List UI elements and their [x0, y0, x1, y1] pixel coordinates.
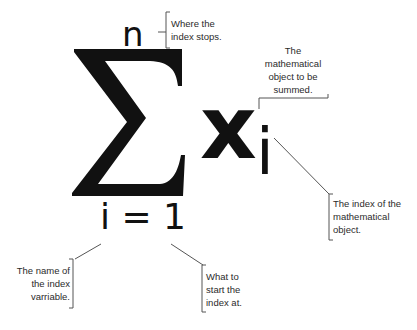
annotation-line: start the [206, 283, 242, 296]
term-subscript: i [256, 120, 274, 184]
index-name-leader [69, 244, 101, 308]
annotation-line: summed. [262, 83, 324, 96]
upper-limit-leader [158, 12, 170, 48]
annotation-upper-limit: Where the index stops. [171, 17, 222, 43]
annotation-line: What to [206, 270, 242, 283]
summand-leader [259, 94, 328, 109]
term-variable: x [200, 84, 255, 172]
annotation-line: Where the [171, 17, 222, 30]
annotation-line: object. [333, 223, 401, 236]
annotation-line: index at. [206, 296, 242, 309]
annotation-index-start: What to start the index at. [206, 270, 242, 309]
annotation-line: The [262, 44, 324, 57]
subscript-leader [274, 138, 333, 240]
sigma-icon [72, 49, 185, 196]
annotation-index-name: The name of the index varriable. [4, 264, 70, 303]
annotation-line: the index [4, 277, 70, 290]
annotation-line: object to be [262, 70, 324, 83]
annotation-summand: The mathematical object to be summed. [262, 44, 324, 96]
upper-limit: n [122, 17, 144, 51]
lower-limit: i = 1 [100, 199, 186, 235]
index-start-leader [171, 244, 206, 312]
annotation-line: index stops. [171, 30, 222, 43]
annotation-line: mathematical [262, 57, 324, 70]
annotation-line: The index of the [333, 197, 401, 210]
annotation-subscript: The index of the mathematical object. [333, 197, 401, 236]
annotation-line: The name of [4, 264, 70, 277]
annotation-line: mathematical [333, 210, 401, 223]
summation-notation-diagram: n x i i = 1 Where the index stops. The m… [0, 0, 417, 330]
annotation-line: varriable. [4, 290, 70, 303]
